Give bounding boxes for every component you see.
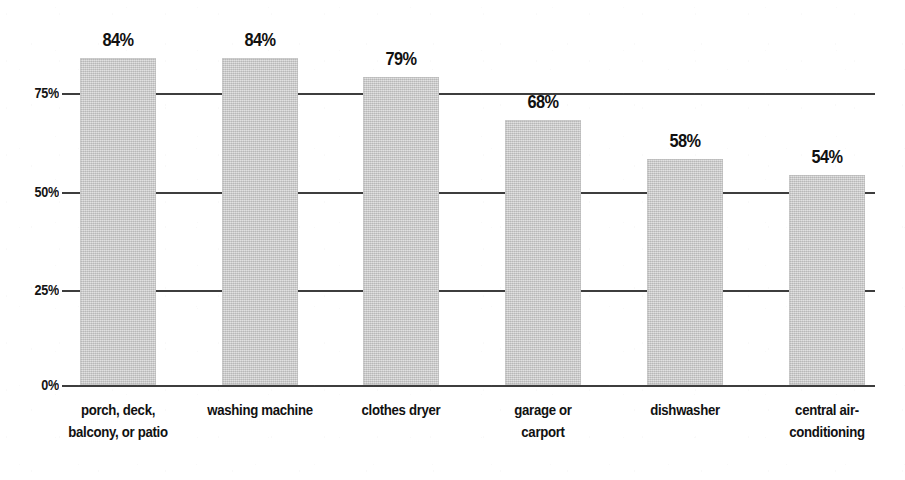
tick-mark-50	[62, 192, 78, 194]
bar-porch-deck-balcony-or-patio	[80, 58, 156, 385]
y-tick-label-0: 0%	[9, 377, 59, 392]
category-label-garage-or-carport: garage or carport	[481, 399, 604, 443]
bar-value-label-washing-machine: 84%	[227, 30, 292, 49]
bar-value-label-clothes-dryer: 79%	[368, 49, 433, 68]
axis-baseline-0	[78, 385, 875, 387]
category-label-porch-deck-balcony-or-patio: porch, deck, balcony, or patio	[56, 399, 179, 443]
category-label-clothes-dryer: clothes dryer	[339, 399, 462, 421]
bar-chart: 75% 50% 25% 0% 84% 84% 79% 68% 58% 54% p…	[0, 0, 905, 480]
bar-value-label-dishwasher: 58%	[652, 131, 717, 150]
bar-value-label-porch-deck-balcony-or-patio: 84%	[85, 30, 150, 49]
category-label-dishwasher: dishwasher	[623, 399, 746, 421]
tick-mark-0	[62, 385, 78, 387]
plot-area: 75% 50% 25% 0% 84% 84% 79% 68% 58% 54% p…	[0, 0, 905, 480]
bar-value-label-central-air-conditioning: 54%	[794, 147, 859, 166]
gridline-50	[78, 192, 875, 194]
tick-mark-25	[62, 290, 78, 292]
bar-garage-or-carport	[505, 120, 581, 385]
y-tick-label-25: 25%	[9, 282, 59, 297]
gridline-75	[78, 93, 875, 95]
bar-washing-machine	[222, 58, 298, 385]
bar-central-air-conditioning	[789, 175, 865, 385]
bar-value-label-garage-or-carport: 68%	[510, 92, 575, 111]
tick-mark-75	[62, 93, 78, 95]
bar-dishwasher	[647, 159, 723, 385]
gridline-25	[78, 290, 875, 292]
y-tick-label-75: 75%	[9, 85, 59, 100]
category-label-washing-machine: washing machine	[198, 399, 321, 421]
bar-clothes-dryer	[363, 77, 439, 385]
y-tick-label-50: 50%	[9, 184, 59, 199]
category-label-central-air-conditioning: central air- conditioning	[765, 399, 888, 443]
